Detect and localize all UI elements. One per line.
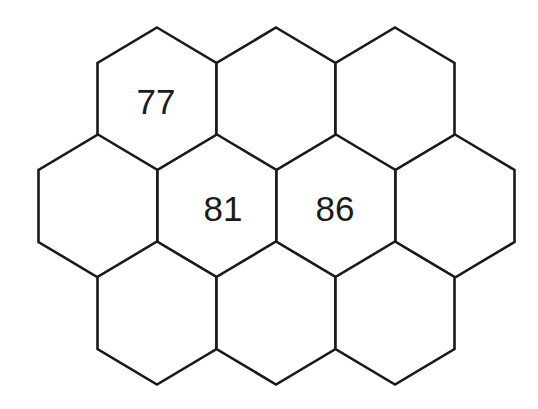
hexagon-grid-diagram: 778186 [0, 0, 538, 409]
hex-cell-value: 81 [204, 189, 243, 228]
hex-cell-value: 86 [316, 189, 355, 228]
hexagon-grid-canvas: 778186 [0, 0, 538, 409]
hex-cell-value: 77 [137, 82, 176, 121]
